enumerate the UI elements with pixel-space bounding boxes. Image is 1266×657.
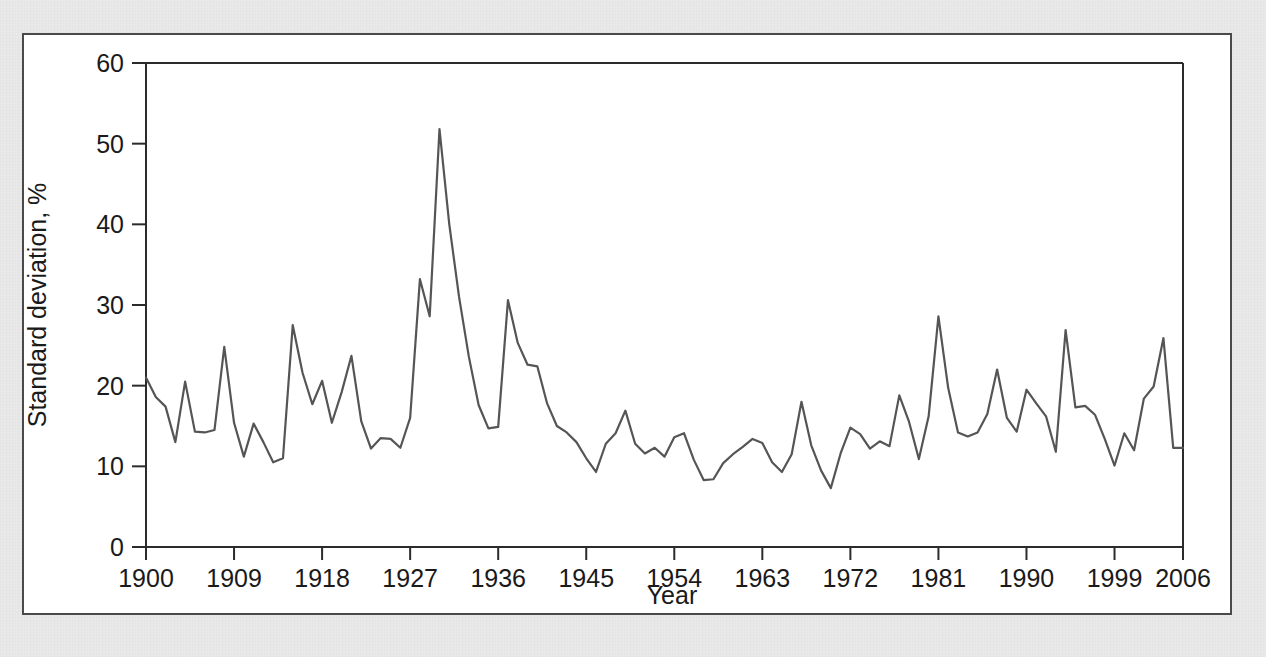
line-chart: 0102030405060 19001909191819271936194519… — [0, 0, 1266, 657]
x-tick-label: 1972 — [823, 564, 879, 592]
x-tick-label: 1909 — [206, 564, 262, 592]
y-tick-label: 0 — [110, 533, 124, 561]
chart-container: 0102030405060 19001909191819271936194519… — [0, 0, 1266, 657]
x-tick-label: 1945 — [558, 564, 614, 592]
y-axis-title: Standard deviation, % — [23, 183, 51, 428]
x-axis-title: Year — [647, 581, 698, 609]
y-tick-label: 30 — [96, 291, 124, 319]
y-tick-label: 50 — [96, 130, 124, 158]
x-tick-label: 1918 — [294, 564, 350, 592]
x-tick-label: 1963 — [735, 564, 791, 592]
x-tick-label: 2006 — [1155, 564, 1211, 592]
page-background: 0102030405060 19001909191819271936194519… — [0, 0, 1266, 657]
x-tick-label: 1927 — [382, 564, 438, 592]
data-series-line — [146, 129, 1183, 488]
y-tick-label: 60 — [96, 49, 124, 77]
y-tick-label: 10 — [96, 452, 124, 480]
y-axis-ticks: 0102030405060 — [96, 49, 146, 561]
x-tick-label: 1999 — [1087, 564, 1143, 592]
x-tick-label: 1936 — [470, 564, 526, 592]
y-tick-label: 20 — [96, 372, 124, 400]
x-tick-label: 1900 — [118, 564, 174, 592]
y-tick-label: 40 — [96, 210, 124, 238]
x-tick-label: 1990 — [999, 564, 1055, 592]
x-tick-label: 1981 — [911, 564, 967, 592]
